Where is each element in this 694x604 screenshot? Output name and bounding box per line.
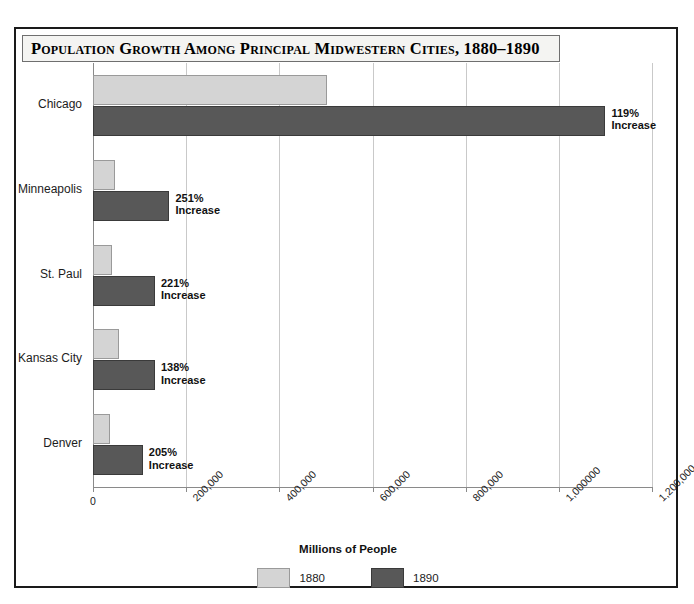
x-axis-tick-label: 800,000 [470,495,478,503]
bar-annotation: 221%Increase [161,277,206,302]
legend-swatch [371,568,404,588]
page-title: Population Growth Among Principal Midwes… [23,39,540,59]
chart-title-plate: Population Growth Among Principal Midwes… [22,35,560,62]
bar-annotation: 119%Increase [611,107,656,132]
chart-legend: 18801890 [16,568,680,588]
x-axis-tick-label: 400,000 [283,495,291,503]
bar-annotation: 251%Increase [175,192,220,217]
bar-note-percent: 251% [175,192,220,205]
bar-1890 [93,276,155,306]
x-axis-tick [652,487,653,492]
category-label: Minneapolis [18,182,82,196]
bar-1880 [93,75,327,105]
legend-entry: 1880 [257,568,325,588]
bar-note-word: Increase [149,459,194,472]
bar-note-word: Increase [611,119,656,132]
legend-swatch [257,568,290,588]
bar-note-word: Increase [161,289,206,302]
legend-entry: 1890 [371,568,439,588]
bar-1880 [93,160,115,190]
x-axis-tick [186,487,187,492]
scan-artifact [430,1,630,10]
plot-area: 0200,000400,000600,000800,0001,0000001,2… [93,63,652,487]
bar-1880 [93,329,119,359]
bar-note-percent: 221% [161,277,206,290]
x-axis-tick-label: 200,000 [190,495,198,503]
category-label: Kansas City [18,351,82,365]
category-label: Chicago [38,97,82,111]
bar-note-word: Increase [175,204,220,217]
x-axis-tick-label: 1,000000 [563,495,571,503]
category-label: St. Paul [40,267,82,281]
bar-1890 [93,360,155,390]
bar-note-percent: 119% [611,107,656,120]
bar-1890 [93,106,605,136]
category-label: Denver [43,436,82,450]
x-axis-tick [93,487,94,492]
x-axis-tick-label: 600,000 [377,495,385,503]
x-axis-tick [279,487,280,492]
bar-1880 [93,245,112,275]
x-axis-title: Millions of People [16,543,680,555]
bar-1880 [93,414,110,444]
x-axis-tick [466,487,467,492]
bar-1890 [93,445,143,475]
legend-label: 1890 [413,572,439,584]
x-axis-tick [373,487,374,492]
bar-note-word: Increase [161,374,206,387]
x-axis-tick-label: 0 [90,495,96,507]
bar-annotation: 138%Increase [161,361,206,386]
x-axis-tick-label: 1,200,000 [656,495,664,503]
category-label-column: ChicagoMinneapolisSt. PaulKansas CityDen… [16,63,88,487]
bar-1890 [93,191,169,221]
bar-annotation: 205%Increase [149,446,194,471]
bar-note-percent: 205% [149,446,194,459]
legend-label: 1880 [299,572,325,584]
bar-note-percent: 138% [161,361,206,374]
x-axis-tick [559,487,560,492]
figure-frame: Population Growth Among Principal Midwes… [14,27,678,588]
